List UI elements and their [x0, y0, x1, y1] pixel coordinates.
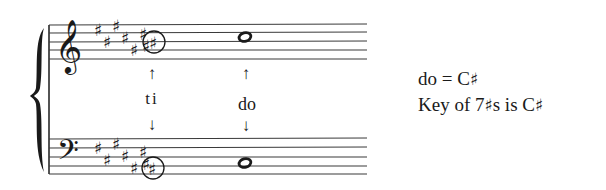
staff-line [49, 41, 367, 42]
ti-label: ti [145, 89, 158, 108]
do-label: do [238, 94, 256, 114]
arrow-down-icon: ↓ [242, 116, 251, 135]
sharp-icon: ♯ [112, 16, 120, 36]
ti-annotation: ↑ ti ↓ [145, 64, 158, 134]
sharp-icon: ♯ [94, 138, 102, 158]
sharp-icon: ♯ [470, 69, 478, 89]
caption-line-2: Key of 7♯s is C♯ [418, 92, 543, 118]
sharp-icon: ♯ [112, 134, 120, 154]
whole-note [238, 157, 252, 168]
sharp-icon: ♯ [103, 32, 111, 52]
arrow-up-icon: ↑ [242, 64, 251, 83]
sharp-icon: ♯ [535, 95, 543, 115]
caption: do = C♯ Key of 7♯s is C♯ [418, 66, 543, 118]
treble-clef-icon: 𝄞 [55, 19, 82, 75]
do-annotation: ↑ do ↓ [238, 64, 256, 135]
sharp-icon: ♯ [121, 146, 129, 166]
brace [30, 28, 44, 172]
bass-clef-icon: 𝄢 [57, 133, 79, 173]
sharp-icon: ♯ [94, 20, 102, 40]
sharp-icon: ♯ [484, 95, 492, 115]
sharp-icon: ♯ [103, 150, 111, 170]
bass-do-note [238, 157, 252, 168]
arrow-down-icon: ↓ [148, 115, 157, 134]
sharp-icon: ♯ [148, 159, 156, 179]
caption-line-1: do = C♯ [418, 66, 543, 92]
arrow-up-icon: ↑ [148, 64, 157, 83]
treble-key-signature: ♯♯♯♯♯♯♯ [94, 16, 150, 60]
sharp-icon: ♯ [149, 33, 157, 53]
sharp-icon: ♯ [121, 28, 129, 48]
caption-text: Key of 7 [418, 94, 484, 115]
caption-text: s is C [493, 94, 535, 115]
sharp-icon: ♯ [130, 158, 138, 178]
caption-text: do = C [418, 68, 470, 89]
sharp-icon: ♯ [130, 40, 138, 60]
bass-key-signature: ♯♯♯♯♯♯♯ [94, 134, 150, 178]
